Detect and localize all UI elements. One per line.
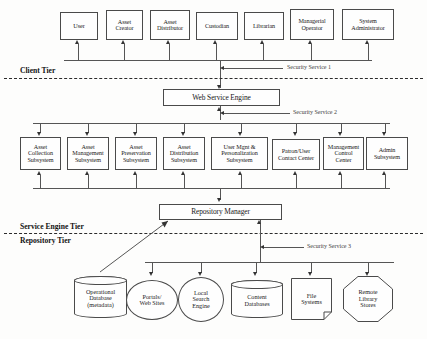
node-system-administrator[interactable]: System Administrator (342, 9, 394, 40)
security-service-1-line (224, 68, 283, 69)
node-remote-library-stores[interactable]: Remote Library Stores (343, 276, 393, 322)
client-trunk-line (220, 60, 221, 88)
operational-database-cap (74, 276, 127, 285)
subsystem-arrow-asset-management (85, 132, 89, 136)
repository-manager-bus-line (33, 188, 390, 189)
node-file-systems-label: File Systems (301, 293, 322, 306)
lower-arrow-asset-collection (37, 171, 41, 175)
lower-stem-admin (385, 175, 386, 188)
subsystem-arrow-user-mgnt (238, 132, 242, 136)
node-custodian-label: Custodian (205, 23, 229, 29)
subsystem-arrow-admin (382, 132, 386, 136)
lower-stem-asset-preservation (136, 175, 137, 188)
node-asset-collection-subsystem-label: Asset Collection Subsystem (28, 144, 54, 163)
node-content-databases-label: Content Databases (244, 291, 269, 307)
client-arrow-librarian (260, 40, 264, 44)
repository-tier-label: Repository Tier (20, 236, 71, 245)
client-arrow-user (75, 40, 79, 44)
lower-stem-asset-collection (40, 175, 41, 188)
lower-arrow-asset-distribution (181, 171, 185, 175)
node-asset-distributor-label: Asset Distributor (157, 19, 183, 32)
node-asset-preservation-subsystem-label: Asset Preservation Subsystem (121, 144, 151, 163)
node-repository-manager[interactable]: Repository Manager (159, 204, 282, 220)
node-asset-collection-subsystem[interactable]: Asset Collection Subsystem (20, 137, 61, 170)
node-managerial-operator[interactable]: Managerial Operator (290, 9, 334, 40)
node-user[interactable]: User (60, 12, 98, 40)
subsystem-arrow-patron-contact (293, 132, 297, 136)
architecture-diagram: User Asset Creator Asset Distributor Cus… (0, 0, 427, 339)
node-web-service-engine-label: Web Service Engine (192, 94, 250, 102)
repository-manager-trunk-arrow (217, 198, 221, 202)
node-managerial-operator-label: Managerial Operator (298, 18, 325, 31)
security-service-2-label: Security Service 2 (293, 109, 337, 115)
node-patron-user-contact-center[interactable]: Patron/User Contact Center (272, 139, 320, 170)
lower-stem-management-control (341, 175, 342, 188)
node-portals-web-sites[interactable]: Portals/ Web Sites (126, 280, 178, 320)
subsystem-arrow-asset-distribution (181, 132, 185, 136)
lower-stem-asset-distribution (184, 175, 185, 188)
security-service-2-arrow (220, 111, 224, 115)
client-arrow-custodian (213, 40, 217, 44)
security-service-2-line (224, 113, 290, 114)
repository-bus-trunk-arrow (257, 220, 261, 224)
lower-arrow-user-mgnt (238, 171, 242, 175)
node-remote-library-stores-label: Remote Library Stores (358, 289, 377, 309)
node-local-search-engine-label: Local Search Engine (192, 290, 210, 310)
client-stem-managerial-operator (311, 44, 312, 60)
node-admin-subsystem-label: Admin Subsystem (374, 147, 400, 160)
node-asset-management-subsystem-label: Asset Management Subsystem (72, 144, 103, 163)
node-asset-distributor[interactable]: Asset Distributor (150, 10, 190, 40)
subsystem-arrow-management-control (338, 132, 342, 136)
repository-arrow-file-systems (308, 272, 312, 276)
lower-arrow-admin (382, 171, 386, 175)
client-bus-line (64, 60, 372, 61)
client-stem-asset-creator (124, 44, 125, 60)
repository-bus-line (145, 262, 394, 263)
client-arrow-managerial-operator (308, 40, 312, 44)
lower-arrow-asset-management (85, 171, 89, 175)
node-custodian[interactable]: Custodian (196, 12, 238, 40)
node-asset-distribution-subsystem[interactable]: Asset Distribution Subsystem (163, 137, 205, 170)
node-librarian[interactable]: Librarian (244, 12, 284, 40)
client-stem-librarian (263, 44, 264, 60)
security-service-1-arrow (220, 66, 224, 70)
node-file-systems[interactable]: File Systems (291, 278, 332, 320)
lower-arrow-patron-contact (293, 171, 297, 175)
node-asset-preservation-subsystem[interactable]: Asset Preservation Subsystem (115, 137, 157, 170)
node-local-search-engine[interactable]: Local Search Engine (178, 277, 224, 322)
node-user-mgnt-personalization-subsystem[interactable]: User Mgnt & Personalization Subsystem (211, 137, 268, 170)
subsystem-arrow-asset-preservation (133, 132, 137, 136)
repository-arrow-content-databases (253, 272, 257, 276)
node-admin-subsystem[interactable]: Admin Subsystem (366, 137, 408, 170)
node-operational-database[interactable]: Operational Database (metadata) (74, 276, 127, 318)
node-management-control-center-label: Management Control Center (328, 144, 359, 163)
service-engine-tier-label: Service Engine Tier (20, 222, 84, 231)
node-asset-management-subsystem[interactable]: Asset Management Subsystem (67, 137, 109, 170)
node-content-databases[interactable]: Content Databases (231, 280, 283, 318)
node-user-mgnt-personalization-subsystem-label: User Mgnt & Personalization Subsystem (221, 144, 258, 163)
client-tier-label: Client Tier (20, 66, 55, 75)
node-user-label: User (73, 23, 84, 29)
node-patron-user-contact-center-label: Patron/User Contact Center (278, 148, 314, 161)
security-service-3-arrow (260, 245, 264, 249)
node-asset-creator-label: Asset Creator (116, 19, 134, 32)
client-arrow-system-administrator (365, 40, 369, 44)
lower-arrow-asset-preservation (133, 171, 137, 175)
node-asset-distribution-subsystem-label: Asset Distribution Subsystem (170, 144, 199, 163)
subsystem-bus-line (33, 123, 390, 124)
node-repository-manager-label: Repository Manager (191, 208, 250, 216)
lower-stem-user-mgnt (241, 175, 242, 188)
lower-arrow-management-control (338, 171, 342, 175)
client-arrow-asset-distributor (166, 40, 170, 44)
service-engine-tier-separator (4, 233, 423, 234)
node-asset-creator[interactable]: Asset Creator (106, 10, 143, 40)
security-service-3-label: Security Service 3 (307, 243, 351, 249)
node-web-service-engine[interactable]: Web Service Engine (163, 89, 280, 106)
node-management-control-center[interactable]: Management Control Center (323, 137, 364, 170)
client-stem-user (78, 44, 79, 60)
subsystem-arrow-asset-collection (37, 132, 41, 136)
client-stem-asset-distributor (169, 44, 170, 60)
repository-bus-trunk (260, 220, 261, 262)
security-service-3-line (264, 247, 304, 248)
node-librarian-label: Librarian (253, 23, 275, 29)
